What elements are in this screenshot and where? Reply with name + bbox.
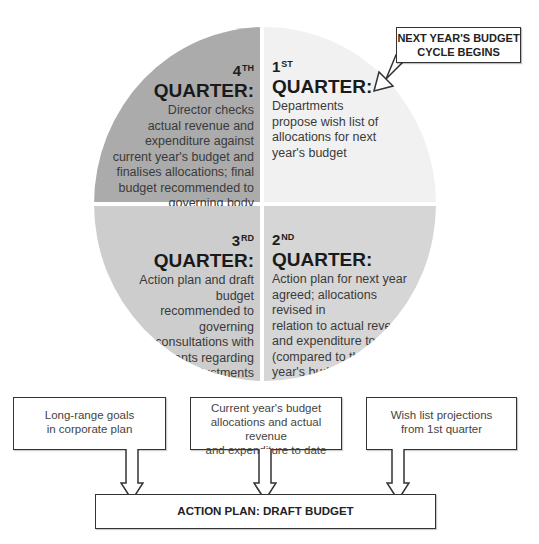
quarter-2-line: year's budget) and to — [272, 365, 417, 381]
box-line: allocations and actual revenue — [191, 415, 341, 443]
quarter-2-line: (compared to the current — [272, 350, 417, 366]
action-plan-draft-budget-box: ACTION PLAN: DRAFT BUDGET — [95, 494, 436, 529]
quarter-2-line: relation to actual revenue — [272, 319, 417, 335]
quarter-3-segment: 3RD QUARTER: Action plan and draft budge… — [94, 206, 260, 381]
quarter-3-line: Action plan and draft budget — [104, 273, 254, 304]
quarter-4-text: 4TH QUARTER: Director checks actual reve… — [104, 59, 254, 212]
quarter-4-number: 4TH — [104, 59, 254, 80]
quarter-4-segment: 4TH QUARTER: Director checks actual reve… — [94, 27, 260, 202]
quarter-2-line: agreed; allocations revised in — [272, 288, 417, 319]
quarter-2-line: and expenditure to date — [272, 334, 417, 350]
quarter-2-number: 2ND — [272, 228, 417, 249]
quarter-1-line: allocations for next — [272, 130, 402, 146]
quarter-3-line: adjustments — [104, 366, 254, 381]
quarter-2-title: QUARTER: — [272, 249, 417, 271]
quarter-2-segment: 2ND QUARTER: Action plan for next year a… — [264, 206, 436, 381]
quarter-4-title: QUARTER: — [104, 80, 254, 102]
long-range-goals-box: Long-range goals in corporate plan — [13, 397, 166, 450]
quarter-3-text: 3RD QUARTER: Action plan and draft budge… — [104, 229, 254, 381]
cycle-begins-callout: NEXT YEAR'S BUDGET CYCLE BEGINS — [396, 27, 521, 63]
quarter-4-line: finalises allocations; final — [104, 165, 254, 181]
quarter-4-line: expenditure against — [104, 134, 254, 150]
action-plan-label: ACTION PLAN: DRAFT BUDGET — [177, 505, 353, 517]
quarter-2-line: Action plan for next year — [272, 272, 417, 288]
box-line: Current year's budget — [191, 401, 341, 415]
quarter-1-line: propose wish list of — [272, 115, 402, 131]
quarter-4-line: Director checks — [104, 103, 254, 119]
quarter-4-line: actual revenue and — [104, 119, 254, 135]
quarter-4-line: budget recommended to — [104, 181, 254, 197]
quarter-4-line: current year's budget and — [104, 150, 254, 166]
current-year-budget-box: Current year's budget allocations and ac… — [190, 397, 342, 450]
quarter-3-line: body; consultations with — [104, 335, 254, 351]
callout-line: CYCLE BEGINS — [397, 45, 520, 59]
box-line: from 1st quarter — [391, 422, 493, 436]
quarter-2-line: action plan — [272, 381, 417, 382]
box-line: Long-range goals — [45, 408, 135, 422]
quarter-1-line: year's budget — [272, 146, 402, 162]
quarter-3-line: recommended to governing — [104, 304, 254, 335]
callout-line: NEXT YEAR'S BUDGET — [397, 31, 520, 45]
quarter-3-number: 3RD — [104, 229, 254, 250]
wish-list-projections-box: Wish list projections from 1st quarter — [366, 397, 517, 450]
box-line: Wish list projections — [391, 408, 493, 422]
box-line: in corporate plan — [45, 422, 135, 436]
quarter-1-line: Departments — [272, 99, 402, 115]
quarter-2-text: 2ND QUARTER: Action plan for next year a… — [272, 228, 417, 381]
quarter-3-title: QUARTER: — [104, 250, 254, 272]
quarter-3-line: departments regarding — [104, 351, 254, 367]
